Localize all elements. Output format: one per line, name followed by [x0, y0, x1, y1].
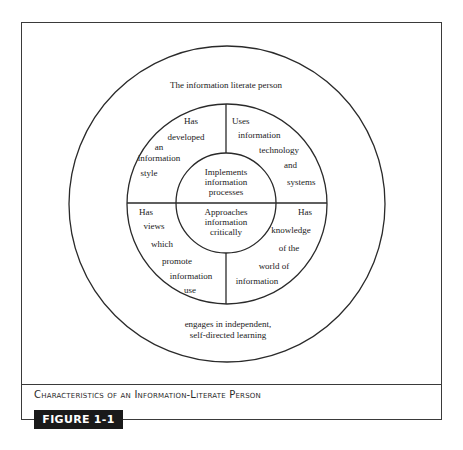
- quadrant-text: promote: [162, 256, 192, 266]
- quadrant-text: technology: [259, 145, 299, 155]
- center-text: Implements: [205, 167, 248, 177]
- center-text: information: [205, 217, 248, 227]
- quadrant-text: knowledge: [271, 225, 311, 235]
- quadrant-text: use: [184, 285, 196, 295]
- center-text: Approaches: [205, 207, 248, 217]
- quadrant-text: information: [138, 153, 181, 163]
- quadrant-text: of the: [279, 243, 300, 253]
- quadrant-top-left: Has developed an information style: [138, 116, 205, 178]
- outer-bottom-line-2: self-directed learning: [190, 330, 267, 340]
- quadrant-text: and: [284, 160, 297, 170]
- quadrant-text: information: [236, 276, 279, 286]
- quadrant-text: developed: [168, 132, 205, 142]
- quadrant-text: Uses: [232, 116, 250, 126]
- figure-label: FIGURE 1-1: [34, 410, 123, 429]
- center-bottom: Approaches information critically: [205, 207, 248, 237]
- quadrant-text: systems: [287, 177, 316, 187]
- quadrant-text: world of: [259, 261, 290, 271]
- quadrant-text: Has: [139, 207, 153, 217]
- middle-circle: [127, 104, 327, 304]
- outer-circle: [69, 46, 385, 362]
- quadrant-text: style: [141, 168, 158, 178]
- center-text: processes: [209, 187, 244, 197]
- center-text: information: [205, 177, 248, 187]
- quadrant-text: views: [144, 221, 165, 231]
- center-text: critically: [210, 227, 242, 237]
- quadrant-text: an: [155, 142, 164, 152]
- information-literacy-diagram: The information literate person engages …: [0, 0, 463, 450]
- quadrant-bottom-right: Has knowledge of the world of informatio…: [236, 207, 313, 286]
- quadrant-text: Has: [298, 207, 312, 217]
- quadrant-bottom-left: Has views which promote information use: [139, 207, 213, 295]
- quadrant-text: which: [151, 239, 173, 249]
- outer-title: The information literate person: [170, 80, 283, 90]
- quadrant-text: Has: [184, 116, 198, 126]
- center-top: Implements information processes: [205, 167, 248, 197]
- figure-caption: Characteristics of an Information-Litera…: [34, 389, 261, 400]
- quadrant-text: information: [170, 271, 213, 281]
- outer-bottom-line-1: engages in independent,: [185, 319, 272, 329]
- quadrant-text: information: [238, 130, 281, 140]
